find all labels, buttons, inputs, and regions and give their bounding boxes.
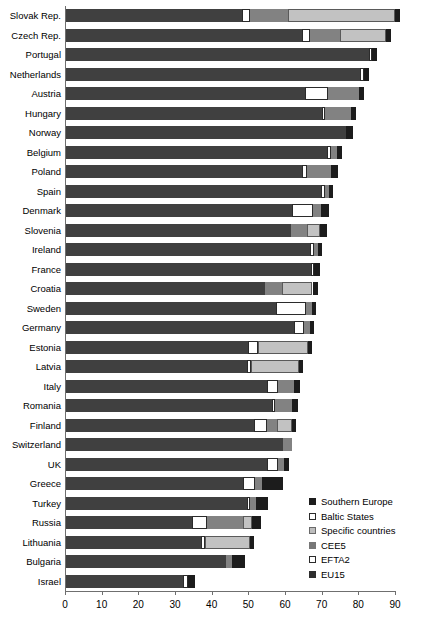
- bar-segment: [310, 29, 340, 42]
- bar-segment: [346, 126, 353, 139]
- bar-segment: [283, 438, 292, 451]
- bar-segment: [313, 282, 319, 295]
- bar-segment: [372, 48, 376, 61]
- bar-row: [65, 224, 395, 237]
- bar-segment: [256, 497, 268, 510]
- bar-segment: [65, 29, 302, 42]
- bar-segment: [65, 204, 292, 217]
- category-label: Croatia: [0, 282, 61, 295]
- bar-row: [65, 107, 395, 120]
- bar-segment: [292, 419, 296, 432]
- legend-swatch-icon: [309, 571, 316, 578]
- bar-row: [65, 282, 395, 295]
- category-label: Portugal: [0, 48, 61, 61]
- category-label: Bulgaria: [0, 555, 61, 568]
- bar-row: [65, 477, 395, 490]
- x-tick-label: 50: [235, 599, 261, 611]
- category-label: Spain: [0, 185, 61, 198]
- bar-segment: [252, 516, 261, 529]
- bar-segment: [294, 321, 304, 334]
- bar-segment: [188, 575, 195, 588]
- x-tick: [65, 591, 66, 595]
- bar-segment: [65, 536, 201, 549]
- legend-swatch-icon: [309, 556, 316, 563]
- bar-segment: [310, 321, 314, 334]
- bar-segment: [275, 399, 292, 412]
- category-label: Czech Rep.: [0, 29, 61, 42]
- bar-segment: [65, 146, 327, 159]
- x-tick-label: 90: [382, 599, 408, 611]
- bar-segment: [340, 29, 386, 42]
- bar-segment: [258, 341, 309, 354]
- bar-segment: [277, 419, 292, 432]
- legend-item: EU15: [309, 568, 427, 583]
- bar-row: [65, 29, 395, 42]
- bar-segment: [65, 107, 322, 120]
- bar-segment: [254, 419, 267, 432]
- x-tick: [212, 591, 213, 595]
- bar-segment: [291, 224, 308, 237]
- category-label: Hungary: [0, 107, 61, 120]
- bar-segment: [282, 282, 312, 295]
- bar-segment: [321, 204, 329, 217]
- bar-segment: [351, 107, 356, 120]
- bar-segment: [305, 87, 328, 100]
- category-label: Israel: [0, 575, 61, 588]
- y-axis-line: [65, 6, 66, 592]
- x-axis-line: [65, 591, 396, 592]
- bar-segment: [265, 282, 282, 295]
- legend-swatch-icon: [309, 542, 316, 549]
- bar-segment: [232, 555, 245, 568]
- bar-segment: [65, 477, 243, 490]
- bar-segment: [205, 536, 250, 549]
- bar-segment: [248, 341, 258, 354]
- bar-segment: [65, 516, 192, 529]
- bar-segment: [250, 536, 254, 549]
- bar-segment: [65, 438, 283, 451]
- bar-segment: [307, 224, 320, 237]
- bar-segment: [65, 9, 242, 22]
- category-label: Russia: [0, 516, 61, 529]
- bar-segment: [251, 360, 299, 373]
- bar-segment: [250, 9, 288, 22]
- category-label: Turkey: [0, 497, 61, 510]
- bar-row: [65, 438, 395, 451]
- category-label: Romania: [0, 399, 61, 412]
- legend-label: EFTA2: [321, 553, 350, 568]
- bar-segment: [65, 185, 321, 198]
- bar-segment: [65, 126, 346, 139]
- bar-segment: [65, 419, 254, 432]
- bar-row: [65, 126, 395, 139]
- x-tick-label: 20: [125, 599, 151, 611]
- bar-segment: [65, 341, 248, 354]
- legend-label: EU15: [321, 568, 345, 583]
- category-label: Slovenia: [0, 224, 61, 237]
- legend-label: Southern Europe: [321, 495, 393, 510]
- bar-segment: [320, 224, 327, 237]
- bar-segment: [65, 263, 311, 276]
- x-tick-label: 30: [162, 599, 188, 611]
- bar-row: [65, 204, 395, 217]
- bar-segment: [386, 29, 391, 42]
- x-tick: [358, 591, 359, 595]
- bar-segment: [284, 458, 289, 471]
- category-label: Sweden: [0, 302, 61, 315]
- bar-segment: [65, 243, 310, 256]
- x-tick-label: 70: [309, 599, 335, 611]
- bar-segment: [299, 360, 303, 373]
- x-tick: [395, 591, 396, 595]
- bar-segment: [243, 516, 252, 529]
- bar-segment: [337, 146, 342, 159]
- bar-segment: [325, 107, 351, 120]
- bar-segment: [65, 360, 247, 373]
- bar-segment: [288, 9, 395, 22]
- bar-row: [65, 341, 395, 354]
- bar-segment: [292, 204, 313, 217]
- category-label: Switzerland: [0, 438, 61, 451]
- category-label: Slovak Rep.: [0, 9, 61, 22]
- bar-segment: [65, 458, 267, 471]
- x-tick-label: 40: [199, 599, 225, 611]
- bar-row: [65, 380, 395, 393]
- bar-segment: [65, 497, 247, 510]
- category-label: Netherlands: [0, 68, 61, 81]
